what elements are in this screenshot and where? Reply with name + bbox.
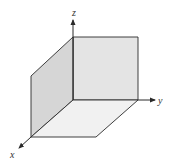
x-axis-label: x: [9, 149, 15, 160]
z-axis-label: z: [71, 7, 76, 18]
y-axis-label: y: [157, 95, 163, 106]
coordinate-planes-diagram: z y x: [0, 0, 173, 168]
x-axis: [19, 137, 31, 148]
yz-plane: [73, 37, 138, 100]
